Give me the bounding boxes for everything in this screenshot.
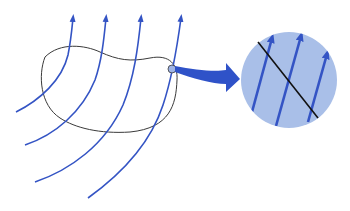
field-lines-group [16,18,181,198]
magnified-view [241,32,337,128]
field-line-3 [35,18,141,182]
magnify-pointer-arrow-icon [175,63,240,92]
surface-point-marker [168,65,176,73]
diagram-svg [0,0,350,211]
diagram-canvas [0,0,350,211]
field-line-4 [88,18,181,198]
field-line-2 [25,18,106,145]
